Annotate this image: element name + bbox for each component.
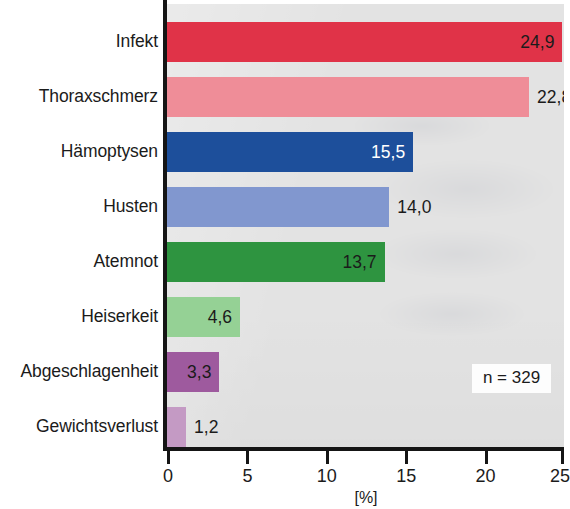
x-tick-label: 0 — [163, 466, 173, 487]
x-tick-label: 25 — [550, 466, 570, 487]
category-label: Abgeschlagenheit — [20, 361, 158, 382]
sample-size-badge: n = 329 — [472, 364, 551, 393]
x-axis-title: [%] — [354, 489, 377, 507]
bar — [167, 77, 529, 117]
x-tick-mark — [326, 451, 329, 464]
category-label: Gewichtsverlust — [36, 416, 158, 437]
category-label: Hämoptysen — [61, 141, 158, 162]
category-label: Infekt — [116, 31, 158, 52]
bar-value-label: 13,7 — [343, 254, 377, 272]
bar — [167, 407, 186, 447]
x-tick-mark — [561, 451, 564, 464]
bar-value-label: 1,2 — [194, 419, 218, 437]
category-axis-labels: InfektThoraxschmerzHämoptysenHustenAtemn… — [0, 0, 163, 447]
category-label: Husten — [103, 196, 158, 217]
y-axis-spine — [163, 0, 167, 451]
x-axis-spine — [163, 447, 564, 451]
bar-value-label: 14,0 — [397, 199, 431, 217]
category-label: Thoraxschmerz — [39, 86, 158, 107]
x-tick-label: 15 — [396, 466, 416, 487]
x-tick-label: 5 — [242, 466, 252, 487]
bar-value-label: 15,5 — [371, 144, 405, 162]
x-tick-mark — [405, 451, 408, 464]
x-tick-label: 20 — [476, 466, 496, 487]
plot-area: 24,922,815,514,013,74,63,31,2 n = 329 — [167, 4, 564, 447]
bar — [167, 22, 562, 62]
x-tick-label: 10 — [317, 466, 337, 487]
x-tick-mark — [485, 451, 488, 464]
category-label: Heiserkeit — [81, 306, 158, 327]
bar — [167, 187, 389, 227]
bar-value-label: 3,3 — [187, 364, 211, 382]
bar-value-label: 4,6 — [208, 309, 232, 327]
category-label: Atemnot — [94, 251, 158, 272]
bar-value-label: 24,9 — [520, 34, 554, 52]
x-tick-mark — [246, 451, 249, 464]
x-tick-mark — [167, 451, 170, 464]
bar-value-label: 22,8 — [537, 89, 564, 107]
